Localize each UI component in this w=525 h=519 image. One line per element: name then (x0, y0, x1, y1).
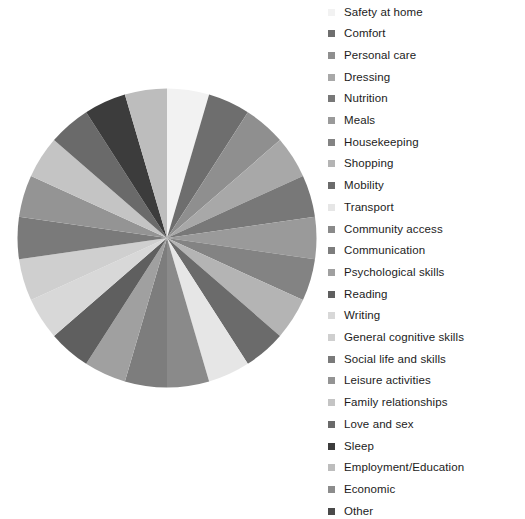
legend-item-label: Community access (344, 223, 443, 236)
pie-chart-plot-area (17, 88, 317, 388)
legend-swatch-icon (328, 443, 335, 450)
legend-item-label: Meals (344, 114, 375, 127)
legend-item-label: Family relationships (344, 396, 448, 409)
legend-swatch-icon (328, 95, 335, 102)
legend-swatch-icon (328, 160, 335, 167)
legend-item[interactable]: Shopping (328, 155, 393, 173)
legend-swatch-icon (328, 508, 335, 515)
legend-swatch-icon (328, 356, 335, 363)
legend-swatch-icon (328, 9, 335, 16)
legend-swatch-icon (328, 399, 335, 406)
legend-item-label: Comfort (344, 27, 386, 40)
legend-swatch-icon (328, 117, 335, 124)
legend-swatch-icon (328, 464, 335, 471)
legend-swatch-icon (328, 312, 335, 319)
legend-item-label: Mobility (344, 179, 384, 192)
legend-item[interactable]: General cognitive skills (328, 329, 464, 347)
pie-chart-svg (17, 88, 317, 388)
legend-item[interactable]: Psychological skills (328, 263, 444, 281)
legend-item-label: Safety at home (344, 6, 423, 19)
legend-item-label: Personal care (344, 49, 416, 62)
legend-item-label: Transport (344, 201, 394, 214)
legend-swatch-icon (328, 269, 335, 276)
legend-item-label: Employment/Education (344, 461, 464, 474)
legend-item-label: Communication (344, 244, 425, 257)
legend-item-label: Other (344, 505, 373, 518)
legend-item-label: Economic (344, 483, 395, 496)
legend-swatch-icon (328, 182, 335, 189)
legend-item-label: Social life and skills (344, 353, 446, 366)
pie-slice-group (18, 89, 317, 388)
legend-item[interactable]: Community access (328, 220, 443, 238)
legend-item[interactable]: Reading (328, 285, 388, 303)
legend-item-label: Writing (344, 309, 380, 322)
legend-item[interactable]: Employment/Education (328, 459, 464, 477)
legend-item-label: Psychological skills (344, 266, 444, 279)
legend-item[interactable]: Dressing (328, 68, 390, 86)
legend-swatch-icon (328, 226, 335, 233)
legend-item[interactable]: Love and sex (328, 415, 414, 433)
legend-swatch-icon (328, 377, 335, 384)
legend-item-label: General cognitive skills (344, 331, 464, 344)
legend-item[interactable]: Housekeeping (328, 133, 419, 151)
legend-item[interactable]: Communication (328, 242, 425, 260)
legend-item[interactable]: Safety at home (328, 3, 423, 21)
legend-item[interactable]: Transport (328, 198, 394, 216)
legend-item[interactable]: Comfort (328, 25, 386, 43)
legend-item[interactable]: Mobility (328, 177, 384, 195)
legend-item[interactable]: Nutrition (328, 90, 388, 108)
legend-item-label: Nutrition (344, 92, 388, 105)
legend-swatch-icon (328, 421, 335, 428)
chart-legend: Safety at homeComfortPersonal careDressi… (328, 0, 523, 482)
legend-item[interactable]: Meals (328, 112, 375, 130)
legend-swatch-icon (328, 291, 335, 298)
legend-item-label: Sleep (344, 440, 374, 453)
legend-item-label: Love and sex (344, 418, 414, 431)
legend-item[interactable]: Writing (328, 307, 380, 325)
legend-item[interactable]: Family relationships (328, 394, 448, 412)
legend-swatch-icon (328, 139, 335, 146)
legend-item-label: Housekeeping (344, 136, 419, 149)
legend-item[interactable]: Personal care (328, 46, 416, 64)
legend-item[interactable]: Economic (328, 480, 395, 498)
legend-swatch-icon (328, 334, 335, 341)
legend-item-label: Leisure activities (344, 374, 431, 387)
legend-swatch-icon (328, 204, 335, 211)
legend-item-label: Shopping (344, 157, 393, 170)
legend-swatch-icon (328, 486, 335, 493)
legend-item[interactable]: Social life and skills (328, 350, 446, 368)
legend-item[interactable]: Other (328, 502, 373, 519)
legend-swatch-icon (328, 30, 335, 37)
legend-item[interactable]: Sleep (328, 437, 374, 455)
legend-item-label: Dressing (344, 71, 390, 84)
legend-swatch-icon (328, 74, 335, 81)
legend-swatch-icon (328, 52, 335, 59)
legend-swatch-icon (328, 247, 335, 254)
legend-item[interactable]: Leisure activities (328, 372, 431, 390)
legend-item-label: Reading (344, 288, 388, 301)
